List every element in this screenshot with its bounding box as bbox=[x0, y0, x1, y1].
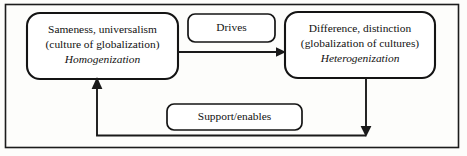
node-homogenization-line2: (culture of globalization) bbox=[46, 38, 160, 51]
node-homogenization-line1: Sameness, universalism bbox=[48, 23, 157, 35]
node-heterogenization-line3: Heterogenization bbox=[320, 52, 400, 64]
node-heterogenization-line1: Difference, distinction bbox=[309, 22, 412, 34]
node-homogenization-line3: Homogenization bbox=[64, 53, 141, 65]
diagram-canvas: Sameness, universalism (culture of globa… bbox=[0, 0, 467, 156]
label-drives: Drives bbox=[216, 21, 247, 33]
node-heterogenization-line2: (globalization of cultures) bbox=[301, 37, 420, 50]
label-support-enables: Support/enables bbox=[198, 110, 272, 122]
diagram-container: Sameness, universalism (culture of globa… bbox=[0, 0, 467, 156]
